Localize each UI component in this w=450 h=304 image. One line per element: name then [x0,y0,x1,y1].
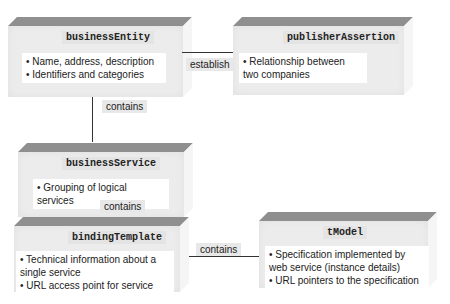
node-tmodel: tModel • Specification implemented by we… [259,212,437,288]
node-description: • Technical information about a single s… [16,251,174,294]
edge-label: contains [196,243,241,256]
node-description: • Relationship between two companies [239,53,367,83]
node-title: businessEntity [62,31,154,44]
node-title: tModel [323,226,367,239]
edge-label: establish [186,58,233,71]
node-description: • Name, address, description • Identifie… [22,53,166,83]
node-publisher-assertion: publisherAssertion • Relationship betwee… [233,17,413,95]
node-title: publisherAssertion [283,31,399,44]
edge-contains [189,256,259,257]
node-description: • Specification implemented by web servi… [265,246,429,289]
edge-label: contains [100,200,145,213]
edge-label: contains [102,100,147,113]
node-business-entity: businessEntity • Name, address, descript… [8,17,192,97]
node-title: businessService [62,157,160,170]
node-binding-template: bindingTemplate • Technical information … [14,217,189,292]
edge-establish [182,52,233,53]
node-title: bindingTemplate [68,231,166,244]
edge-contains [92,97,93,142]
